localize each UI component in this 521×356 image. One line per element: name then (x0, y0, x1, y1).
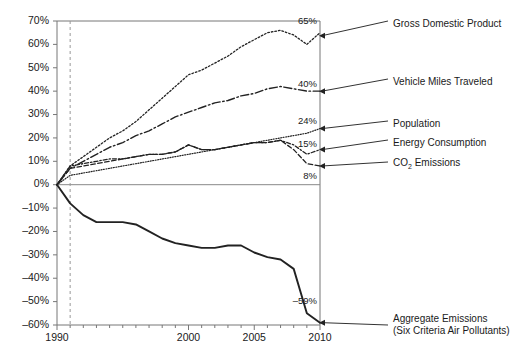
x-tick-label-3: 2010 (308, 331, 332, 343)
y-tick-label-6: 10% (28, 154, 49, 166)
y-tick-label-13: –60% (22, 318, 49, 330)
series-label-population: Population (393, 118, 440, 129)
callout-co2-leader (322, 162, 388, 166)
x-tick-label-2: 2005 (243, 331, 267, 343)
y-tick-label-0: 70% (28, 14, 49, 26)
y-tick-label-10: –30% (22, 248, 49, 260)
series-line-vmt (57, 86, 320, 184)
value-label-co2-emissions: 8% (303, 170, 317, 181)
chart-figure: 70%60%50%40%30%20%10%0%–10%–20%–30%–40%–… (0, 0, 521, 356)
series-label-energy-consumption: Energy Consumption (393, 137, 486, 148)
y-tick-label-8: –10% (22, 201, 49, 213)
emissions-vs-economic-indicators-chart: 70%60%50%40%30%20%10%0%–10%–20%–30%–40%–… (0, 0, 521, 356)
y-tick-label-2: 50% (28, 61, 49, 73)
value-label-aggregate-emissions: –59% (293, 295, 318, 306)
callout-energy-leader (322, 140, 388, 150)
callout-vmt-leader (322, 79, 388, 91)
callout-aggregate-leader (322, 323, 388, 325)
x-tick-label-1: 2000 (177, 331, 201, 343)
series-label-vehicle-miles-traveled: Vehicle Miles Traveled (393, 76, 493, 87)
data-series-group (57, 30, 320, 322)
y-tick-label-4: 30% (28, 107, 49, 119)
y-axis-tick-labels: 70%60%50%40%30%20%10%0%–10%–20%–30%–40%–… (22, 14, 49, 330)
series-label-co2-emissions: CO2 Emissions (393, 157, 460, 170)
value-label-population: 24% (298, 115, 318, 126)
x-axis-tick-marks (57, 325, 320, 330)
y-tick-label-3: 40% (28, 84, 49, 96)
y-tick-label-9: –20% (22, 224, 49, 236)
series-line-aggregate (57, 185, 320, 323)
series-label-gdp: Gross Domestic Product (393, 18, 502, 29)
value-label-vehicle-miles-traveled: 40% (298, 78, 318, 89)
x-axis-tick-labels: 1990200020052010 (45, 331, 332, 343)
y-tick-label-11: –40% (22, 271, 49, 283)
callout-population-leader (322, 121, 388, 129)
series-label-aggregate-emissions-line1: Aggregate Emissions (393, 313, 488, 324)
series-line-population (57, 129, 320, 185)
y-tick-label-5: 20% (28, 131, 49, 143)
series-label-aggregate-emissions-line2: (Six Criteria Air Pollutants) (393, 325, 510, 336)
callout-gdp-leader (322, 21, 388, 36)
x-tick-label-0: 1990 (45, 331, 69, 343)
y-tick-label-12: –50% (22, 294, 49, 306)
value-label-energy-consumption: 15% (298, 138, 318, 149)
y-tick-label-1: 60% (28, 37, 49, 49)
y-axis-tick-marks (53, 21, 57, 325)
y-tick-label-7: 0% (34, 177, 49, 189)
callout-leader-lines (319, 21, 388, 326)
value-label-gdp: 65% (298, 15, 318, 26)
